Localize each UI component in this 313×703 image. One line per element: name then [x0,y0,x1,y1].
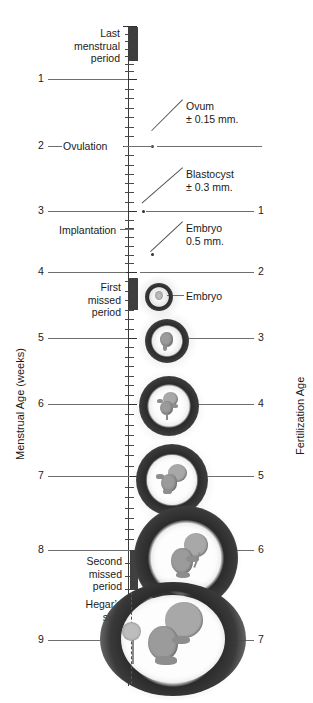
left-tick-8: 8 [38,544,44,555]
ruler-day-tick [125,255,134,256]
label-ovulation: Ovulation [63,140,123,153]
left-tick-2: 2 [38,140,44,151]
week-rule-3a [48,211,128,212]
right-tick-3: 3 [258,332,264,343]
embryo-leg-4 [163,489,172,494]
week-rule-4b [140,272,254,273]
ruler-day-tick [125,347,134,348]
ruler-day-tick [125,366,134,367]
right-tick-1: 1 [258,205,264,216]
ruler-day-tick [125,445,134,446]
callout-blastocyst-line2: ± 0.3 mm. [186,181,233,194]
label-implantation: Implantation [59,224,129,237]
ruler-day-tick [125,127,134,128]
gestational-timeline-figure: Menstrual Age (weeks) Fertilization Age … [0,0,313,703]
ruler-day-tick [125,455,134,456]
week-rule-5a [48,338,128,339]
ruler-day-tick [125,64,134,65]
week-rule-2a [48,146,62,147]
ruler-day-tick [125,108,134,109]
ruler-day-tick [125,435,134,436]
left-tick-1: 1 [38,73,44,84]
right-tick-5: 5 [258,470,264,481]
week-rule-4a [48,272,126,273]
left-tick-3: 3 [38,205,44,216]
week-rule-6a [48,404,128,405]
ruler-day-tick [125,117,134,118]
ruler-day-tick [125,98,134,99]
callout-embryo-05mm-line1: Embryo [186,222,222,235]
menses-bar-lmp [129,27,138,61]
ruler-day-tick [125,155,134,156]
label-first-missed-period: First missed period [55,281,121,319]
ruler-day-tick [125,518,134,519]
label-last-menstrual-period: Last menstrual period [52,27,120,65]
right-tick-2: 2 [258,266,264,277]
right-tick-7: 7 [258,634,264,645]
leader-line-ovum [151,99,183,131]
embryo-leg-5 [176,572,190,578]
left-tick-4: 4 [38,266,44,277]
yolk-sac-6 [122,622,141,641]
callout-embryo-sac: Embryo [186,290,222,303]
yolk-sac-1 [155,291,163,300]
right-axis-title: Fertilization Age [294,377,306,455]
fetus-leg-6 [155,656,177,665]
callout-ovum-line1: Ovum [186,100,214,113]
callout-blastocyst-line1: Blastocyst [186,168,234,181]
ruler-day-tick [125,174,134,175]
left-tick-5: 5 [38,332,44,343]
week-rule-8a [48,550,130,551]
embryo-limb-3b [172,404,178,408]
ruler-day-tick [125,71,134,72]
ruler-day-tick [125,192,134,193]
umbilical-cord-6 [132,640,134,664]
ruler-day-tick [125,237,134,238]
week-rule-2c [157,146,262,147]
fetus-arm-6 [172,636,190,644]
embryo-limb-3a [157,399,163,403]
leader-line-embryo-05mm [150,221,183,252]
embryo-tail-2 [163,344,167,351]
leader-dot-blastocyst [142,210,145,213]
callout-ovum-line2: ± 0.15 mm. [186,113,238,126]
left-tick-6: 6 [38,398,44,409]
ruler-day-tick [125,89,134,90]
right-tick-6: 6 [258,544,264,555]
ruler-day-tick [125,357,134,358]
week-rule-3b [146,211,254,212]
leader-dot-embryo-05mm [151,253,154,256]
ruler-day-tick [125,183,134,184]
ruler-day-tick [125,246,134,247]
ruler-day-tick [125,136,134,137]
ruler-day-tick [125,319,134,320]
ruler-day-tick [125,165,134,166]
implantation-rule [120,229,134,230]
week-rule-2b [124,146,154,147]
right-tick-4: 4 [258,398,264,409]
ruler-day-tick [125,220,134,221]
ruler-day-tick [125,202,134,203]
embryo-arm-4 [156,474,164,479]
ruler-day-tick [125,385,134,386]
ruler-day-tick [125,263,134,264]
left-tick-7: 7 [38,470,44,481]
left-tick-9: 9 [38,634,44,645]
ruler-day-tick [125,425,134,426]
ruler-day-tick [125,329,134,330]
week-rule-1 [48,79,128,80]
week-rule-7a [48,476,130,477]
leader-line-blastocyst [142,167,183,203]
callout-embryo-05mm-line2: 0.5 mm. [186,235,224,248]
ruler-day-tick [125,508,134,509]
ruler-day-tick [125,376,134,377]
yolk-stalk-3 [166,412,168,420]
left-axis-title: Menstrual Age (weeks) [14,348,26,460]
label-second-missed-period: Second missed period [52,555,122,593]
